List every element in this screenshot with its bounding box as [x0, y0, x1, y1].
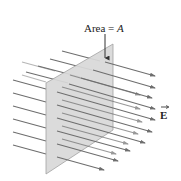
area-label-prefix: Area =: [84, 22, 117, 34]
diagram-canvas: Area = A E: [0, 0, 181, 181]
field-label: E: [160, 109, 167, 121]
area-symbol: A: [117, 22, 124, 34]
surface-plane: [46, 44, 113, 174]
area-label: Area = A: [84, 22, 124, 34]
